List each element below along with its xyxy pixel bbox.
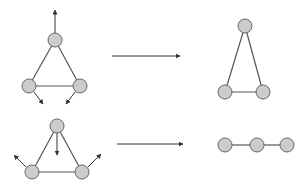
row-1-after-edge [245,26,263,92]
row-2-before-node-top [50,119,64,133]
row-1-before-edge [29,40,55,86]
row-2-before-force-arrow-icon [88,154,101,167]
row-1-before-force-arrow-icon [34,92,43,104]
row-1-before-node-top [48,33,62,47]
row-2-after-node-a [218,138,232,152]
row-1-after-node-top [238,19,252,33]
row-2-before-node-right [75,165,89,179]
row-1-after-edge [225,26,245,92]
row-2-before-edge [32,126,57,172]
row-2-before-edge [57,126,82,172]
row-1-before-force-arrow-icon [66,92,75,104]
row-1-before-node-left [22,79,36,93]
diagram-canvas [0,0,307,186]
row-1-after-node-left [218,85,232,99]
row-2-before-node-left [25,165,39,179]
row-2-after-node-b [250,138,264,152]
row-1-before-node-right [73,79,87,93]
row-1-after-node-right [256,85,270,99]
edges-layer [29,26,287,172]
row-2-after-node-c [280,138,294,152]
nodes-layer [22,19,294,179]
arrows-layer [14,10,183,167]
row-1-before-edge [55,40,80,86]
row-2-before-force-arrow-icon [14,155,26,167]
